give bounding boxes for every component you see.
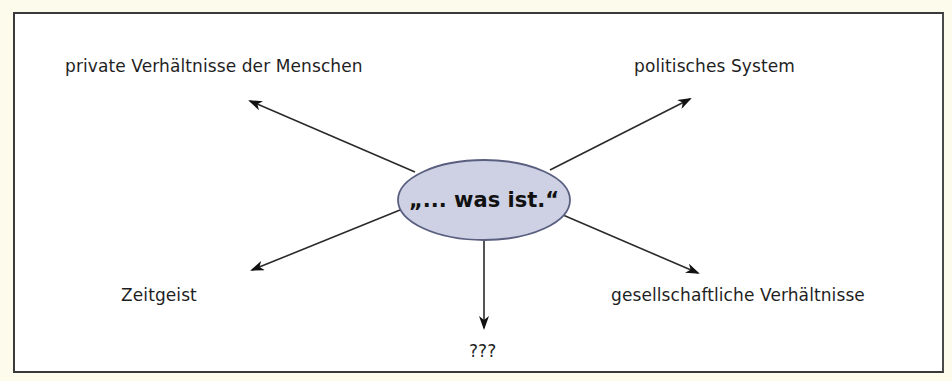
node-social-relations: gesellschaftliche Verhältnisse	[611, 285, 865, 305]
arrow-to-political-system	[550, 99, 690, 170]
node-private-relations: private Verhältnisse der Menschen	[65, 56, 363, 76]
node-zeitgeist: Zeitgeist	[121, 285, 197, 305]
arrow-to-private-relations	[250, 101, 415, 172]
node-unknown: ???	[469, 341, 496, 361]
center-concept-label: „... was ist.“	[398, 160, 570, 240]
node-political-system: politisches System	[634, 56, 795, 76]
arrow-to-social-relations	[563, 215, 698, 273]
arrow-to-zeitgeist	[252, 210, 400, 270]
